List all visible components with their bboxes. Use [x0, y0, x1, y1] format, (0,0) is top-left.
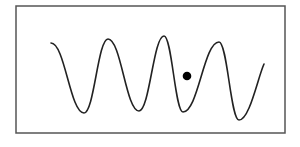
wave-diagram	[0, 0, 300, 147]
dot-marker	[183, 72, 192, 81]
frame-border	[16, 6, 285, 133]
diagram-canvas	[0, 0, 300, 147]
wave-curve	[51, 36, 264, 120]
